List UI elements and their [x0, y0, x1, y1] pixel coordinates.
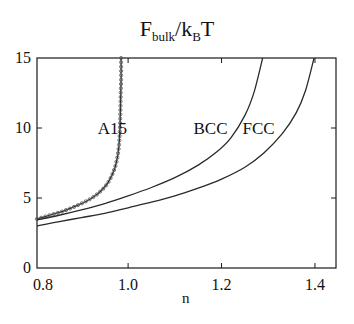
- y-tick-label: 10: [15, 119, 31, 136]
- x-tick-label: 0.8: [33, 276, 53, 293]
- plot-frame: [37, 58, 336, 268]
- series-fcc-line: [37, 58, 314, 226]
- y-tick-label: 5: [23, 189, 31, 206]
- line-chart: 0.81.01.21.4051015A15BCCFCC: [0, 0, 354, 324]
- x-axis-label: n: [182, 290, 190, 307]
- curve-label-fcc: FCC: [243, 119, 275, 138]
- curve-label-bcc: BCC: [194, 119, 228, 138]
- curve-label-a15: A15: [98, 119, 127, 138]
- series-bcc-line: [37, 58, 263, 220]
- y-tick-label: 15: [15, 49, 31, 66]
- x-tick-label: 1.2: [212, 276, 232, 293]
- x-tick-label: 1.0: [118, 276, 138, 293]
- y-tick-label: 0: [23, 259, 31, 276]
- series-a15-line: [37, 58, 121, 219]
- x-tick-label: 1.4: [305, 276, 325, 293]
